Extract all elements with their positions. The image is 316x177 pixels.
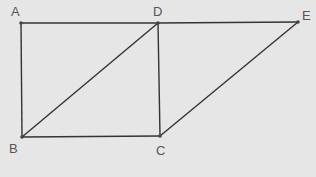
point-E	[296, 20, 300, 24]
label-C: C	[156, 143, 165, 158]
point-A	[19, 21, 23, 25]
segments-group	[21, 22, 298, 137]
segment-DC	[158, 23, 160, 136]
segment-BD	[22, 23, 158, 137]
label-E: E	[302, 8, 311, 23]
diagram-svg: A D E B C	[0, 0, 316, 177]
segment-DE	[158, 22, 298, 23]
segment-BC	[22, 136, 160, 137]
point-C	[158, 134, 162, 138]
label-A: A	[11, 4, 20, 19]
label-B: B	[9, 141, 18, 156]
point-D	[156, 21, 160, 25]
geometry-diagram: A D E B C	[0, 0, 316, 177]
point-B	[20, 135, 24, 139]
segment-AB	[21, 23, 22, 137]
label-D: D	[153, 4, 162, 19]
segment-CE	[160, 22, 298, 136]
